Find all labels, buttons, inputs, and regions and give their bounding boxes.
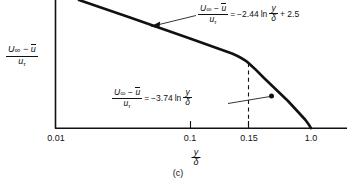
eq2-arg-denominator: δ: [183, 98, 192, 107]
eq2-coefficient: −3.74: [151, 93, 173, 103]
eq1-equals: =: [230, 9, 235, 19]
figure-caption: (c): [173, 168, 184, 178]
eq1-ln: ln: [261, 9, 268, 19]
annotation-log-law-equation: U∞ − u uτ = −2.44 ln y δ + 2.5: [198, 3, 299, 25]
y-axis-label: U∞ − u uτ: [6, 44, 38, 67]
x-axis-label-denominator: δ: [191, 158, 200, 167]
eq1-coefficient: −2.44: [237, 9, 259, 19]
annotation-2-endpoint-dot: [269, 94, 274, 99]
eq2-equals: =: [144, 93, 149, 103]
eq1-constant: + 2.5: [280, 9, 299, 19]
eq2-ln: ln: [175, 93, 182, 103]
eq2-denominator: uτ: [112, 99, 142, 109]
velocity-defect-figure: U∞ − u uτ U∞ − u uτ = −2.44 ln y δ + 2.5…: [0, 0, 355, 186]
annotation-1-leader-line: [155, 16, 196, 26]
eq1-denominator: uτ: [198, 15, 228, 25]
x-tick-label-2: 0.15: [240, 133, 258, 143]
x-axis-label: y δ: [191, 148, 200, 168]
y-axis-label-denominator: uτ: [6, 57, 38, 67]
x-tick-label-1: 0.1: [184, 133, 197, 143]
x-tick-label-3: 1.0: [305, 133, 318, 143]
x-tick-label-0: 0.01: [47, 133, 65, 143]
eq1-arg-denominator: δ: [269, 14, 278, 23]
annotation-wake-equation: U∞ − u uτ = −3.74 ln y δ: [112, 87, 192, 109]
